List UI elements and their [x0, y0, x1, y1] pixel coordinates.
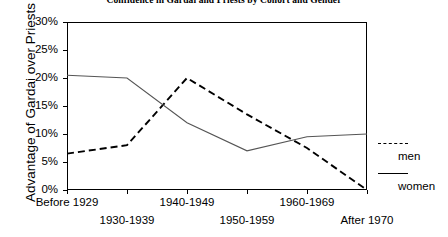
series-line-men: [67, 78, 367, 190]
legend-label-men: men: [398, 151, 420, 163]
series-layer: [0, 0, 448, 237]
legend-label-women: women: [398, 181, 435, 193]
legend-swatch-women: [378, 173, 408, 174]
chart-container: Confidence in Gardai and Priests by Coho…: [0, 0, 448, 237]
legend-swatch-men: [378, 143, 408, 144]
series-line-women: [67, 75, 367, 151]
